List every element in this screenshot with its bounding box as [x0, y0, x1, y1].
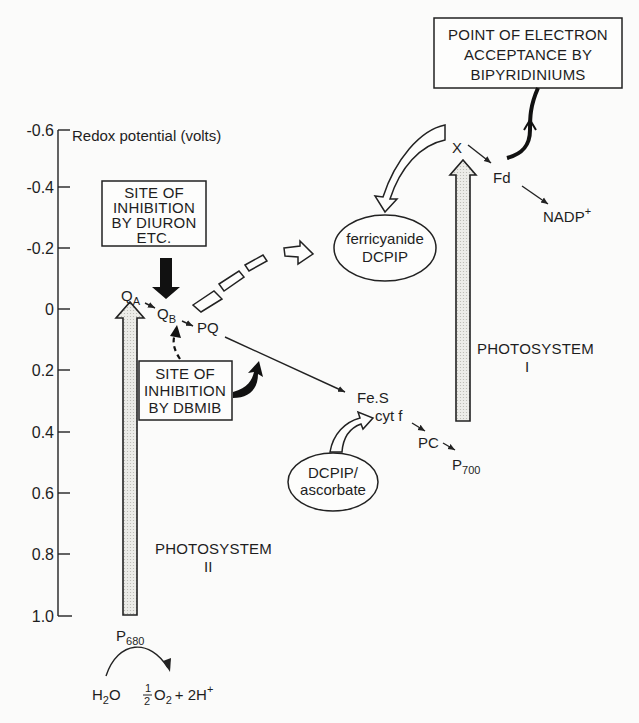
- tick-label: 0.6: [32, 485, 54, 502]
- svg-text:1: 1: [145, 682, 151, 694]
- photosystem-1-numeral: I: [525, 358, 529, 375]
- tick-label: 0.2: [32, 362, 54, 379]
- svg-text:ETC.: ETC.: [137, 229, 172, 246]
- fes-label: Fe.S: [357, 389, 389, 406]
- pc-label: PC: [418, 434, 439, 451]
- svg-text:DCPIP/: DCPIP/: [308, 464, 359, 481]
- svg-text:P700: P700: [452, 456, 480, 476]
- svg-text:P680: P680: [116, 627, 144, 647]
- dbmib-block-arrow: [233, 361, 263, 398]
- fd-to-nadp-arrow: [522, 186, 548, 204]
- dbmib-dashed-arrow: [174, 334, 180, 359]
- svg-text:SITE OF: SITE OF: [155, 365, 215, 382]
- svg-text:H2O: H2O: [92, 686, 121, 706]
- bipyridinium-acceptance-box: POINT OF ELECTRON ACCEPTANCE BY BIPYRIDI…: [434, 18, 622, 88]
- tick-label: 0.8: [32, 546, 54, 563]
- tick-label: -0.4: [26, 179, 54, 196]
- photosystem-2-arrow: [116, 302, 144, 615]
- photosystem-2-numeral: II: [204, 558, 213, 575]
- dcpip-ascorbate-oval: DCPIP/ ascorbate: [288, 453, 378, 511]
- axis-ticks: [58, 130, 72, 616]
- z-scheme-diagram: -0.6 -0.4 -0.2 0 0.2 0.4 0.6 0.8 1.0 Red…: [0, 0, 639, 723]
- svg-text:ferricyanide: ferricyanide: [346, 230, 424, 247]
- tick-label: -0.6: [26, 122, 54, 139]
- hollow-arrow-x-to-ferricyanide: [375, 125, 445, 212]
- svg-text:BY DBMIB: BY DBMIB: [148, 399, 221, 416]
- tick-label: 0.4: [32, 424, 54, 441]
- bipyridinium-pointer-arrow: [507, 88, 538, 158]
- svg-text:BIPYRIDINIUMS: BIPYRIDINIUMS: [470, 66, 585, 83]
- dbmib-inhibition-box: SITE OF INHIBITION BY DBMIB: [139, 361, 232, 420]
- tick-label: 0: [45, 301, 54, 318]
- x-label: X: [452, 139, 462, 156]
- tick-label: -0.2: [26, 240, 54, 257]
- oxygen-proton-label: 1 2 O2+ 2H+: [143, 682, 213, 707]
- axis-title: Redox potential (volts): [72, 127, 221, 144]
- water-label: H2O: [92, 686, 121, 706]
- nadp-label: NADP+: [543, 205, 591, 225]
- diuron-block-arrow: [152, 258, 180, 299]
- svg-text:2: 2: [144, 695, 150, 707]
- svg-text:ascorbate: ascorbate: [300, 481, 366, 498]
- svg-text:POINT OF ELECTRON: POINT OF ELECTRON: [448, 26, 608, 43]
- qb-to-pq-arrow: [182, 321, 193, 326]
- cytf-to-pc-arrow: [412, 423, 425, 431]
- cytf-label: cyt f: [375, 407, 403, 424]
- qb-label: QB: [157, 305, 176, 325]
- photosystem-1-arrow: [450, 160, 476, 421]
- p680-label: P680: [116, 627, 144, 647]
- diuron-inhibition-box: SITE OF INHIBITION BY DIURON ETC.: [102, 181, 206, 246]
- tick-label: 1.0: [32, 608, 54, 625]
- photosystem-1-label: PHOTOSYSTEM: [477, 340, 594, 357]
- qa-to-qb-arrow: [145, 303, 155, 308]
- fd-label: Fd: [493, 169, 511, 186]
- svg-text:INHIBITION: INHIBITION: [144, 382, 226, 399]
- pc-to-p700-arrow: [443, 443, 455, 450]
- svg-text:DCPIP: DCPIP: [362, 248, 408, 265]
- svg-text:O2+ 2H+: O2+ 2H+: [154, 683, 213, 706]
- x-to-fd-arrow: [468, 145, 491, 163]
- svg-text:QB: QB: [157, 305, 176, 325]
- dashed-hollow-arrow-to-ferricyanide: [193, 241, 313, 312]
- pq-label: PQ: [197, 319, 219, 336]
- ferricyanide-dcpip-oval: ferricyanide DCPIP: [334, 215, 436, 281]
- pq-to-fes-arrow: [225, 337, 345, 392]
- photosystem-2-label: PHOTOSYSTEM: [155, 540, 272, 557]
- svg-text:ACCEPTANCE BY: ACCEPTANCE BY: [464, 46, 592, 63]
- water-oxidation-arrow: [106, 647, 168, 676]
- hollow-arrow-ascorbate-to-cytf: [330, 412, 373, 452]
- p700-label: P700: [452, 456, 480, 476]
- svg-text:NADP+: NADP+: [543, 205, 591, 225]
